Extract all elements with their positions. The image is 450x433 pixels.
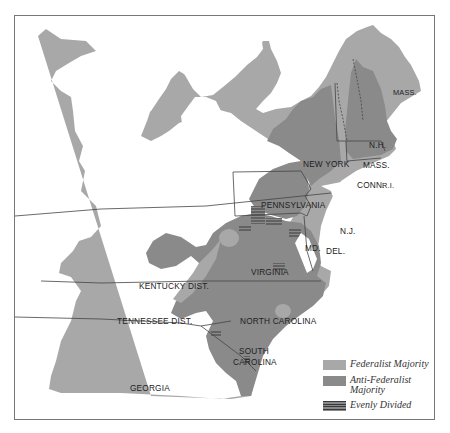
legend-item-federalist: Federalist Majority: [323, 359, 430, 370]
label-md: MD.: [305, 243, 321, 253]
map-frame: MASS. N.H. MASS. CONN. R.I. NEW YORK PEN…: [14, 15, 435, 420]
hatch-md: [289, 229, 301, 237]
hatch-va-north: [239, 225, 251, 231]
label-south-carolina-2: CAROLINA: [233, 357, 277, 367]
label-pennsylvania: PENNSYLVANIA: [261, 200, 325, 210]
label-south-carolina-1: SOUTH: [239, 346, 269, 356]
label-mass-maine: MASS.: [393, 88, 417, 97]
label-nj: N.J.: [340, 226, 355, 236]
lake-michigan: [126, 93, 156, 191]
label-virginia: VIRGINIA: [251, 267, 289, 277]
label-del: DEL.: [326, 246, 345, 256]
legend: Federalist Majority Anti-Federalist Majo…: [323, 359, 430, 416]
label-kentucky: KENTUCKY DIST.: [139, 281, 209, 291]
virginia-federalist-island: [219, 229, 239, 247]
legend-label-federalist: Federalist Majority: [350, 359, 430, 369]
legend-item-anti-federalist: Anti-Federalist Majority: [323, 375, 430, 395]
label-georgia: GEORGIA: [130, 383, 170, 393]
legend-label-evenly-divided: Evenly Divided: [350, 400, 430, 410]
label-nh: N.H.: [369, 140, 386, 150]
label-conn: CONN.: [357, 180, 385, 190]
swatch-evenly-divided: [323, 401, 346, 411]
label-north-carolina: NORTH CAROLINA: [240, 316, 317, 326]
swatch-anti-federalist: [323, 376, 346, 386]
hatch-sc-1: [211, 331, 221, 336]
label-new-york: NEW YORK: [303, 159, 349, 169]
hatch-pa-south: [266, 218, 282, 225]
legend-item-evenly-divided: Evenly Divided: [323, 400, 430, 411]
swatch-federalist: [323, 360, 346, 370]
label-mass: MASS.: [363, 160, 390, 170]
legend-label-anti-federalist: Anti-Federalist Majority: [350, 375, 420, 395]
label-tennessee: TENNESSEE DIST.: [117, 316, 192, 326]
label-ri: R.I.: [382, 181, 394, 190]
